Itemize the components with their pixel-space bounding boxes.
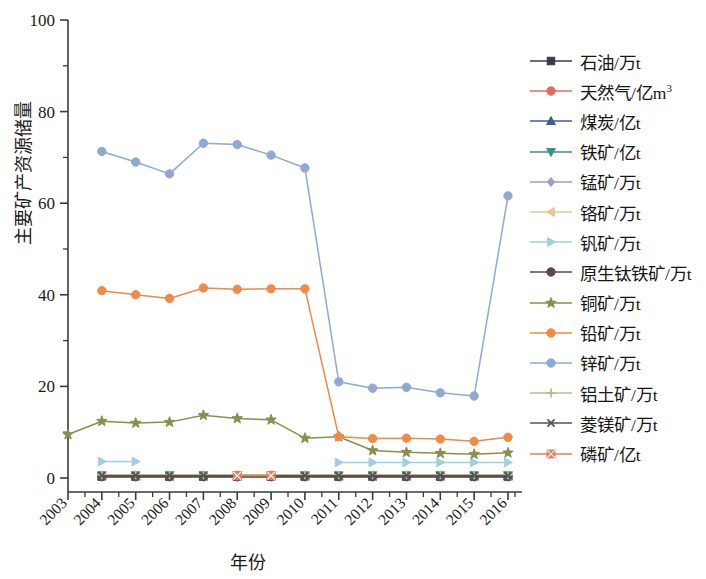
legend-item-label: 菱镁矿/万t — [580, 411, 658, 436]
legend-swatch-group — [530, 87, 572, 95]
marker-star — [367, 445, 377, 455]
marker-circle — [98, 147, 106, 155]
legend-marker-x-icon — [528, 412, 574, 434]
legend-item[interactable]: 铜矿/万t — [528, 288, 706, 318]
legend-item[interactable]: 菱镁矿/万t — [528, 408, 706, 438]
y-tick-label: 0 — [47, 469, 56, 488]
x-tick-label: 2012 — [341, 494, 375, 528]
legend-item[interactable]: 锌矿/万t — [528, 348, 706, 378]
x-tick-label: 2010 — [273, 494, 307, 528]
chart-legend: 石油/万t天然气/亿m3煤炭/亿t铁矿/亿t锰矿/万t铬矿/万t钒矿/万t原生钛… — [528, 46, 706, 469]
marker-circle — [199, 284, 207, 292]
marker-x-square — [233, 472, 241, 480]
legend-marker-triangle-down-icon — [528, 141, 574, 163]
legend-item[interactable]: 天然气/亿m3 — [528, 76, 706, 106]
x-tick-label: 2005 — [104, 494, 138, 528]
marker-star — [266, 414, 276, 424]
marker-circle — [436, 435, 444, 443]
legend-marker-triangle-up-icon — [528, 110, 574, 132]
x-tick-label: 2011 — [307, 494, 341, 528]
legend-item-label: 石油/万t — [580, 49, 641, 74]
series-line — [102, 288, 508, 441]
legend-item-label: 铬矿/万t — [580, 200, 641, 225]
legend-marker-diamond-icon — [528, 171, 574, 193]
marker-circle — [165, 170, 173, 178]
marker-triangle-right — [547, 238, 555, 247]
marker-circle — [547, 329, 555, 337]
marker-star — [164, 417, 174, 427]
marker-diamond — [547, 177, 554, 186]
legend-item-label: 铝土矿/万t — [580, 381, 658, 406]
x-tick-label: 2016 — [476, 494, 510, 528]
series-6 — [98, 457, 512, 467]
marker-star — [232, 413, 242, 423]
legend-item[interactable]: 锰矿/万t — [528, 167, 706, 197]
marker-star — [130, 418, 140, 428]
x-tick-label: 2014 — [408, 494, 442, 528]
legend-item-label: 锌矿/万t — [580, 350, 641, 375]
legend-item[interactable]: 铬矿/万t — [528, 197, 706, 227]
marker-circle — [233, 140, 241, 148]
x-tick-label: 2004 — [70, 494, 104, 528]
legend-item-label: 铁矿/亿t — [580, 139, 641, 164]
legend-swatch-group — [530, 268, 572, 276]
legend-swatch-group — [530, 148, 572, 156]
legend-swatch-group — [530, 420, 572, 427]
legend-item[interactable]: 石油/万t — [528, 46, 706, 76]
marker-plus — [547, 389, 556, 398]
marker-x-square — [547, 450, 555, 458]
legend-item-label: 铜矿/万t — [580, 290, 641, 315]
marker-triangle-right — [403, 458, 411, 467]
marker-circle — [335, 433, 343, 441]
legend-item[interactable]: 铅矿/万t — [528, 318, 706, 348]
y-tick-label: 20 — [38, 377, 55, 396]
marker-star — [198, 410, 208, 420]
x-tick-label: 2006 — [138, 494, 172, 528]
x-tick-label: 2008 — [205, 494, 239, 528]
legend-item-label: 天然气/亿m3 — [580, 79, 672, 104]
plot-area: 0204060801002003200420052006200720082009… — [0, 0, 530, 579]
y-tick-label: 80 — [38, 103, 55, 122]
marker-triangle-right — [504, 458, 512, 467]
y-tick-label: 100 — [30, 11, 56, 30]
legend-marker-circle-icon — [528, 352, 574, 374]
legend-marker-circle-icon — [528, 80, 574, 102]
marker-circle — [436, 389, 444, 397]
x-tick-label: 2009 — [239, 494, 273, 528]
marker-square — [547, 57, 554, 64]
marker-circle — [402, 434, 410, 442]
marker-circle — [267, 285, 275, 293]
legend-item-label: 磷矿/亿t — [580, 441, 641, 466]
legend-item[interactable]: 磷矿/亿t — [528, 438, 706, 468]
marker-triangle-right — [471, 458, 479, 467]
legend-item[interactable]: 铁矿/亿t — [528, 137, 706, 167]
marker-star — [546, 297, 556, 307]
legend-swatch-group — [530, 238, 572, 247]
legend-item[interactable]: 原生钛铁矿/万t — [528, 257, 706, 287]
marker-circle — [504, 433, 512, 441]
legend-item[interactable]: 铝土矿/万t — [528, 378, 706, 408]
legend-swatch-group — [530, 117, 572, 125]
marker-circle — [368, 434, 376, 442]
marker-circle — [267, 151, 275, 159]
marker-triangle-right — [369, 458, 377, 467]
legend-swatch-group — [530, 329, 572, 337]
marker-circle — [470, 392, 478, 400]
series-10 — [98, 139, 513, 400]
legend-swatch-group — [530, 177, 572, 186]
marker-star — [469, 449, 479, 459]
legend-item[interactable]: 钒矿/万t — [528, 227, 706, 257]
legend-marker-star-icon — [528, 292, 574, 314]
series-line — [102, 143, 508, 396]
marker-star — [97, 416, 107, 426]
x-tick-label: 2007 — [172, 494, 206, 528]
legend-item[interactable]: 煤炭/亿t — [528, 106, 706, 136]
marker-circle — [165, 294, 173, 302]
marker-x-square — [267, 472, 275, 480]
marker-star — [300, 433, 310, 443]
marker-circle — [547, 87, 555, 95]
legend-marker-circle-icon — [528, 261, 574, 283]
x-tick-label: 2013 — [375, 494, 409, 528]
series-9 — [98, 284, 513, 446]
marker-star — [401, 447, 411, 457]
